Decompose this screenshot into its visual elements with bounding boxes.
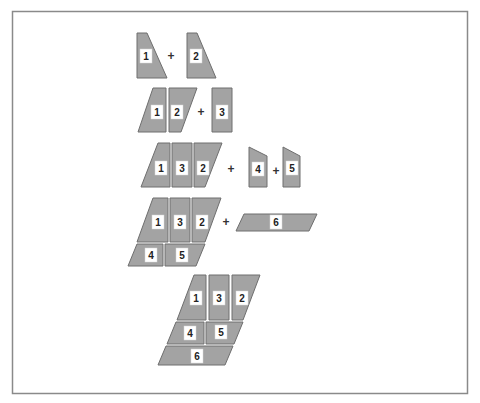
piece-2: 2 — [232, 275, 260, 320]
piece-label: 3 — [177, 217, 183, 228]
piece-label: 3 — [179, 163, 185, 174]
plus-operator: + — [167, 49, 174, 63]
piece-3: 3 — [172, 143, 192, 187]
piece-1: 1 — [137, 198, 168, 242]
assembly-step-1: 12+ — [137, 33, 216, 78]
pieces-layer: 12+123+13245++132456+132456 — [128, 33, 317, 365]
piece-label: 4 — [148, 250, 154, 261]
piece-6: 6 — [158, 346, 233, 365]
piece-label: 2 — [239, 293, 245, 304]
piece-label: 1 — [155, 217, 161, 228]
piece-3: 3 — [212, 88, 232, 132]
plus-operator: + — [227, 162, 234, 176]
assembly-step-3: 13245++ — [141, 143, 300, 187]
piece-label: 2 — [200, 163, 206, 174]
piece-label: 6 — [194, 351, 200, 362]
piece-label: 6 — [273, 217, 279, 228]
piece-2: 2 — [194, 143, 222, 187]
plus-operator: + — [222, 215, 229, 229]
piece-label: 4 — [187, 328, 193, 339]
piece-1: 1 — [141, 143, 170, 187]
piece-label: 2 — [193, 51, 199, 62]
piece-label: 3 — [219, 107, 225, 118]
piece-label: 2 — [199, 217, 205, 228]
assembly-diagram: 12+123+13245++132456+132456 — [0, 0, 480, 403]
piece-1: 1 — [138, 88, 166, 132]
piece-label: 1 — [143, 51, 149, 62]
piece-label: 5 — [218, 327, 224, 338]
assembly-step-5: 132456 — [158, 275, 260, 365]
piece-6: 6 — [236, 214, 317, 231]
piece-2: 2 — [187, 33, 216, 78]
piece-5: 5 — [206, 322, 243, 344]
piece-4: 4 — [249, 147, 267, 187]
piece-label: 3 — [216, 293, 222, 304]
piece-1: 1 — [137, 33, 167, 78]
assembly-step-2: 123+ — [138, 88, 232, 132]
diagram-canvas: 12+123+13245++132456+132456 — [0, 0, 480, 403]
piece-label: 1 — [193, 293, 199, 304]
piece-5: 5 — [165, 244, 205, 266]
piece-label: 5 — [179, 250, 185, 261]
piece-label: 1 — [154, 107, 160, 118]
plus-operator: + — [272, 164, 279, 178]
piece-2: 2 — [192, 198, 221, 242]
piece-2: 2 — [169, 88, 197, 132]
piece-1: 1 — [177, 275, 206, 320]
piece-3: 3 — [170, 198, 190, 242]
piece-label: 5 — [289, 163, 295, 174]
piece-5: 5 — [283, 147, 300, 187]
piece-3: 3 — [209, 275, 229, 320]
piece-label: 4 — [255, 164, 261, 175]
diagram-frame — [13, 12, 468, 394]
piece-label: 1 — [158, 163, 164, 174]
piece-4: 4 — [128, 244, 163, 266]
assembly-step-4: 132456+ — [128, 198, 317, 266]
piece-label: 2 — [174, 107, 180, 118]
plus-operator: + — [197, 105, 204, 119]
piece-4: 4 — [167, 322, 204, 344]
